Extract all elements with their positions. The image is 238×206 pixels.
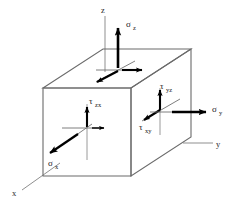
z-axis-label: z (101, 5, 105, 15)
sigma-z-label-base: σ (126, 19, 131, 29)
sigma-x-arrow (50, 134, 78, 153)
tau-yz-label-base: τ (160, 81, 164, 91)
stress-cube (43, 49, 191, 176)
sigma-z-label-subscript: z (133, 24, 136, 31)
sigma-y-label: σ y (212, 104, 223, 116)
sigma-y-label-base: σ (212, 104, 217, 114)
tau-xy-label-subscript: xy (145, 127, 152, 134)
y-axis-label: y (216, 139, 221, 149)
top-face-shear-arrow-diagonal (97, 71, 118, 82)
stress-element-figure: z y x σ z σ y σ x τ zx τ yz τ (0, 0, 238, 206)
tau-yz-label: τ yz (160, 81, 172, 93)
right-face-stress-group (142, 88, 206, 135)
tau-xy-label-base: τ (139, 122, 143, 132)
tau-xy-arrow (144, 110, 160, 120)
top-face-stress-group (96, 28, 142, 82)
tau-yz-label-subscript: yz (166, 86, 172, 93)
tau-zx-label: τ zx (89, 96, 102, 108)
x-axis-label: x (12, 188, 17, 198)
sigma-y-label-subscript: y (219, 109, 223, 116)
stress-element-diagram: z y x σ z σ y σ x τ zx τ yz τ (0, 0, 238, 206)
sigma-x-label-base: σ (48, 158, 53, 168)
tau-zx-label-subscript: zx (95, 101, 102, 108)
front-face-stress-group (50, 104, 104, 160)
tau-zx-label-base: τ (89, 96, 93, 106)
tau-xy-label: τ xy (139, 122, 152, 134)
sigma-z-label: σ z (126, 19, 136, 31)
